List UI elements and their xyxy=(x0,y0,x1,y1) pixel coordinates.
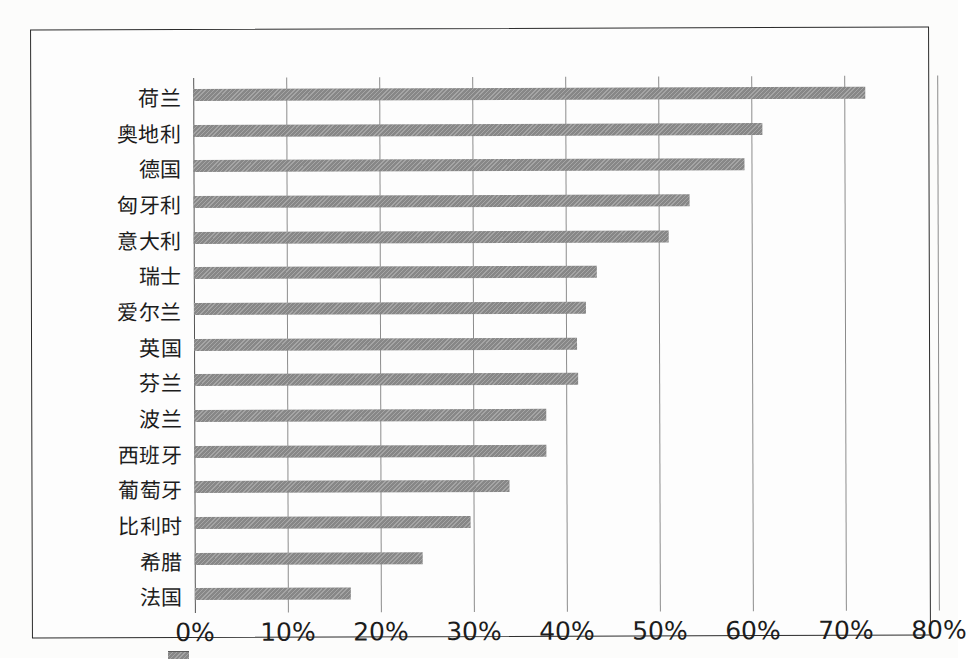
category-label: 英国 xyxy=(139,331,182,361)
category-label: 比利时 xyxy=(118,510,183,540)
gridline-70 xyxy=(844,76,847,611)
category-label: 法国 xyxy=(140,581,183,611)
category-label: 爱尔兰 xyxy=(117,296,182,326)
category-label: 荷兰 xyxy=(138,82,181,112)
bar xyxy=(193,123,762,137)
x-tick-label: 40% xyxy=(539,617,595,646)
category-label: 葡萄牙 xyxy=(118,474,183,504)
category-label: 意大利 xyxy=(117,224,182,254)
bar xyxy=(194,194,690,208)
category-label: 德国 xyxy=(138,153,181,183)
category-label: 西班牙 xyxy=(118,438,183,468)
chart-frame: 荷兰奥地利德国匈牙利意大利瑞士爱尔兰英国芬兰波兰西班牙葡萄牙比利时希腊法国 0%… xyxy=(30,27,931,639)
category-label: 波兰 xyxy=(139,403,182,433)
bar xyxy=(194,444,547,457)
plot-area xyxy=(193,76,939,613)
bar xyxy=(195,588,351,600)
x-tick-label: 80% xyxy=(911,615,967,644)
x-tick-label: 60% xyxy=(725,616,781,645)
bar xyxy=(194,337,577,350)
bar xyxy=(193,87,865,101)
bar xyxy=(193,158,745,172)
bar xyxy=(194,230,669,243)
bar xyxy=(194,301,586,314)
legend-color-swatch xyxy=(168,651,189,659)
category-axis: 荷兰奥地利德国匈牙利意大利瑞士爱尔兰英国芬兰波兰西班牙葡萄牙比利时希腊法国 xyxy=(71,78,189,613)
gridline-80 xyxy=(937,76,940,611)
gridline-50 xyxy=(658,76,661,611)
x-tick-label: 30% xyxy=(446,617,502,646)
x-axis-tick-labels: 0%10%20%30%40%50%60%70%80% xyxy=(195,616,939,652)
category-label: 匈牙利 xyxy=(117,189,182,219)
category-label: 希腊 xyxy=(140,545,183,575)
x-tick-label: 70% xyxy=(818,616,874,645)
bar xyxy=(194,409,547,422)
x-tick-label: 50% xyxy=(632,616,688,645)
x-tick-label: 20% xyxy=(353,617,409,646)
bar xyxy=(195,552,423,565)
category-label: 芬兰 xyxy=(139,367,182,397)
category-label: 奥地利 xyxy=(117,117,182,147)
x-tick-label: 10% xyxy=(260,618,316,647)
x-tick-label: 0% xyxy=(175,618,215,647)
gridline-60 xyxy=(751,76,754,611)
category-label: 瑞士 xyxy=(139,260,182,290)
bar xyxy=(194,266,597,279)
bar xyxy=(194,373,578,386)
bar xyxy=(194,480,509,493)
bar xyxy=(195,516,471,529)
